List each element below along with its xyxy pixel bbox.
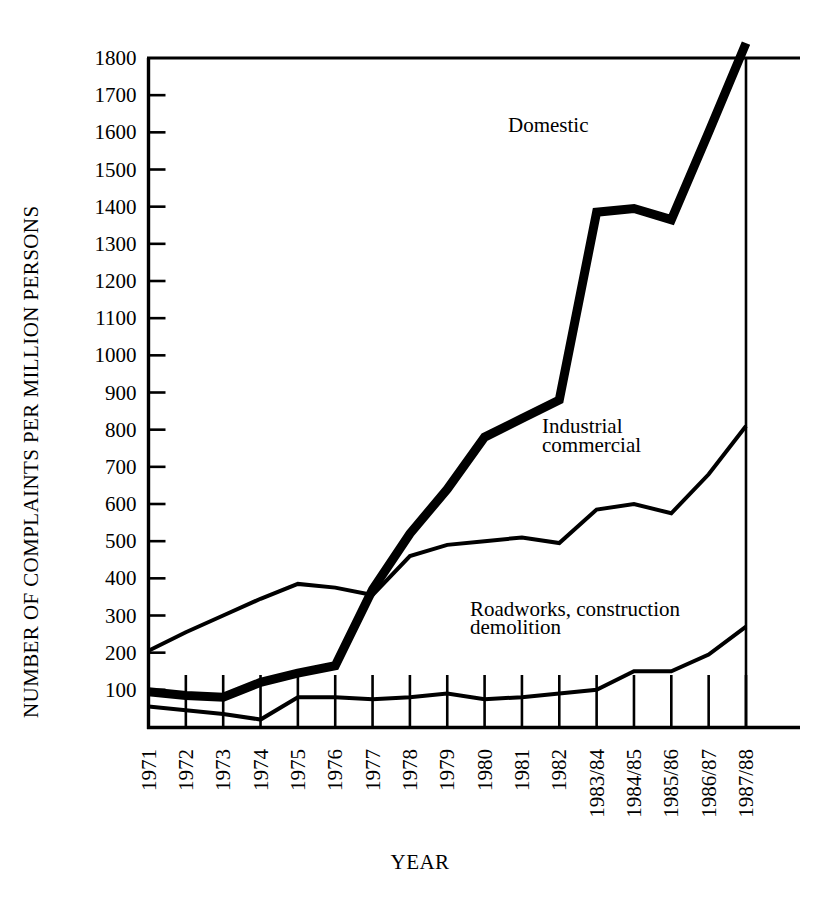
series-annotation-label: commercial [542,433,641,457]
y-tick-label: 800 [105,418,137,442]
x-tick-label: 1979 [435,749,459,791]
y-tick-label: 900 [105,381,137,405]
chart-page: NUMBER OF COMPLAINTS PER MILLION PERSONS… [0,0,824,903]
y-tick-label: 500 [105,529,137,553]
x-tick-label: 1985/86 [659,749,683,818]
x-tick-label: 1983/84 [585,749,609,818]
x-tick-label: 1971 [137,749,161,791]
x-tick-label: 1977 [361,749,385,791]
y-tick-label: 1100 [95,306,136,330]
y-tick-label: 1600 [95,120,137,144]
x-tick-label: 1984/85 [622,749,646,818]
x-tick-label: 1987/88 [734,749,758,818]
x-tick-label: 1974 [249,749,273,792]
y-tick-label: 1500 [95,158,137,182]
y-tick-label: 200 [105,641,137,665]
y-tick-label: 1700 [95,83,137,107]
x-tick-label: 1973 [211,749,235,791]
x-tick-label: 1978 [398,749,422,791]
y-tick-label: 1400 [95,195,137,219]
complaints-line-chart: NUMBER OF COMPLAINTS PER MILLION PERSONS… [0,0,824,903]
x-tick-label: 1976 [323,749,347,791]
x-tick-label: 1972 [174,749,198,791]
y-tick-label: 700 [105,455,137,479]
series-annotation-label: demolition [470,615,561,639]
series-annotation-label: Domestic [508,113,588,137]
y-tick-label: 1000 [95,343,137,367]
x-axis-title-label: YEAR [391,850,450,874]
y-tick-label: 600 [105,492,137,516]
x-tick-label: 1980 [473,749,497,791]
x-tick-label: 1986/87 [697,749,721,818]
y-axis-title: NUMBER OF COMPLAINTS PER MILLION PERSONS [19,206,43,718]
y-tick-label: 1300 [95,232,137,256]
y-tick-label: 100 [105,678,137,702]
x-tick-label: 1975 [286,749,310,791]
x-tick-label: 1981 [510,749,534,791]
x-tick-label: 1982 [547,749,571,791]
y-axis-title-label: NUMBER OF COMPLAINTS PER MILLION PERSONS [19,206,43,718]
y-tick-label: 400 [105,566,137,590]
y-tick-label: 1200 [95,269,137,293]
y-tick-label: 1800 [95,46,137,70]
y-tick-label: 300 [105,604,137,628]
